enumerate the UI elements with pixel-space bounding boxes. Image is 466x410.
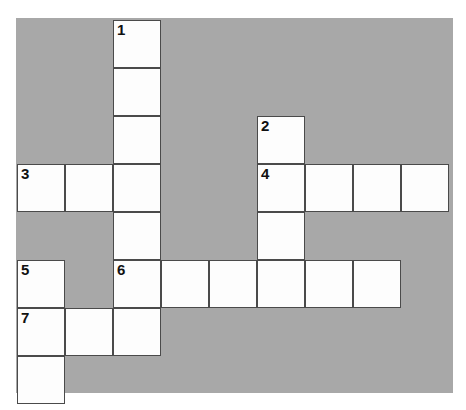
crossword-cell[interactable] bbox=[257, 260, 305, 308]
crossword-cell[interactable] bbox=[305, 164, 353, 212]
crossword-cell[interactable] bbox=[401, 164, 449, 212]
crossword-cell[interactable] bbox=[161, 260, 209, 308]
crossword-cell[interactable]: 7 bbox=[17, 308, 65, 356]
crossword-cell[interactable]: 3 bbox=[17, 164, 65, 212]
cell-number-label: 4 bbox=[261, 165, 269, 183]
crossword-cell[interactable] bbox=[65, 308, 113, 356]
crossword-cell[interactable] bbox=[113, 212, 161, 260]
crossword-cell[interactable] bbox=[113, 68, 161, 116]
crossword-cell[interactable] bbox=[257, 212, 305, 260]
crossword-cell[interactable]: 4 bbox=[257, 164, 305, 212]
cell-number-label: 6 bbox=[117, 261, 125, 279]
crossword-cell[interactable] bbox=[209, 260, 257, 308]
cell-number-label: 1 bbox=[117, 21, 125, 39]
crossword-cell[interactable] bbox=[353, 260, 401, 308]
crossword-cell[interactable] bbox=[353, 164, 401, 212]
crossword-grid[interactable]: 1234567 bbox=[16, 18, 453, 393]
crossword-puzzle-root: 1234567 bbox=[0, 0, 466, 410]
crossword-cell[interactable]: 6 bbox=[113, 260, 161, 308]
cell-number-label: 5 bbox=[21, 261, 29, 279]
crossword-cell[interactable]: 1 bbox=[113, 20, 161, 68]
crossword-cell[interactable] bbox=[17, 356, 65, 404]
crossword-cell[interactable]: 2 bbox=[257, 116, 305, 164]
crossword-cell[interactable] bbox=[113, 308, 161, 356]
crossword-cell[interactable] bbox=[113, 116, 161, 164]
crossword-cell[interactable]: 5 bbox=[17, 260, 65, 308]
crossword-cell[interactable] bbox=[113, 164, 161, 212]
crossword-cell[interactable] bbox=[305, 260, 353, 308]
cell-number-label: 3 bbox=[21, 165, 29, 183]
cell-number-label: 2 bbox=[261, 117, 269, 135]
crossword-cell[interactable] bbox=[65, 164, 113, 212]
cell-number-label: 7 bbox=[21, 309, 29, 327]
